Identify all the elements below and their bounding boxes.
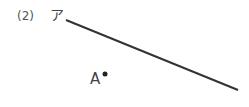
straight-line <box>66 20 238 90</box>
geometry-figure <box>0 0 249 107</box>
point-dot <box>103 72 108 77</box>
